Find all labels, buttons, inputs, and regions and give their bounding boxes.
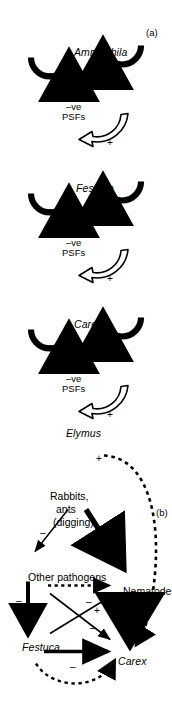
node-label-carex-a: Carex [74,318,103,329]
psf-label-2-line2: PSFs [62,246,85,257]
transition-sign-1: + [107,137,113,147]
transition-sign-2: + [107,273,113,283]
festuca-positive-sign: + [118,204,124,214]
transition-sign-3: + [107,409,113,419]
node-label-festuca-b: Festuca [22,641,60,652]
node-label-nematodes: Nematodes [123,585,172,596]
figure-root: (a) Ammophila – + –ve PSFs + Festuca – +… [0,0,172,705]
node-label-festuca-a: Festuca [76,182,114,193]
edge-sign-rabbits-to-nematodes: – [106,523,112,533]
psf-label-2: –ve PSFs [62,237,85,257]
node-label-rabbits-line3: (digging) [53,516,94,527]
festuca-negative-sign: – [47,203,53,213]
node-label-other-pathogens: Other pathogens [28,571,106,582]
edge-sign-other-pathogens-to-carex: – [90,622,96,632]
transition-hollow-arrow-2 [79,249,128,282]
transition-hollow-arrow-1 [79,113,128,146]
node-label-elymus: Elymus [66,427,101,438]
node-label-rabbits-line2: ants [56,503,76,514]
edge-sign-festuca-to-carex: – [70,661,76,671]
psf-label-3-line2: PSFs [62,382,85,393]
figure-canvas: (a) Ammophila – + –ve PSFs + Festuca – +… [0,0,172,705]
psf-label-2-line1: –ve [66,236,81,247]
chain-head-positive-sign: + [96,453,102,463]
node-label-rabbits-line1: Rabbits, [50,490,89,501]
psf-label-3: –ve PSFs [62,373,85,393]
psf-label-1-line1: –ve [66,100,81,111]
psf-label-1-line2: PSFs [62,110,85,121]
edge-sign-other-pathogens-to-festuca: – [16,595,22,605]
edge-sign-rabbits-to-other-pathogens: – [40,527,46,537]
carex-positive-cycle [103,317,141,336]
panel-a-label: (a) [146,27,158,37]
ammophila-negative-sign: – [47,67,53,77]
carex-positive-sign: + [118,340,124,350]
edge-sign-festuca-to-nematodes: + [94,605,100,615]
carex-negative-sign: – [47,339,53,349]
psf-label-1: –ve PSFs [62,101,85,121]
node-label-carex-b: Carex [118,655,147,666]
node-label-ammophila: Ammophila [74,46,127,57]
edge-sign-other-pathogens-to-nematodes: – [86,596,92,606]
edge-sign-nematodes-to-carex: – [140,621,146,631]
panel-b-label: (b) [156,507,168,517]
ammophila-positive-sign: + [118,68,124,78]
psf-label-3-line1: –ve [66,372,81,383]
transition-hollow-arrow-3 [79,385,128,418]
